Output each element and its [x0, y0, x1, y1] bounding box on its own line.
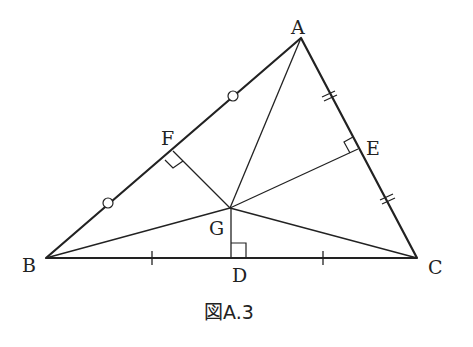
equal-mark-circle-1 — [228, 91, 238, 101]
right-angle-d — [231, 243, 246, 258]
label-e: E — [366, 137, 380, 159]
equal-mark-circle-2 — [103, 198, 113, 208]
label-b: B — [22, 254, 36, 276]
segment-ge — [230, 149, 358, 208]
right-angle-e — [344, 137, 353, 153]
label-g: G — [209, 217, 224, 239]
label-f: F — [161, 127, 174, 149]
segment-gf — [173, 151, 230, 208]
figure-caption: 図A.3 — [204, 301, 254, 323]
label-d: D — [232, 264, 247, 286]
segment-gc — [230, 208, 417, 258]
label-a: A — [290, 16, 305, 38]
right-angle-f — [165, 160, 183, 168]
segment-ga — [230, 38, 301, 208]
label-c: C — [428, 256, 443, 278]
triangle-diagram: A B C D E F G 図A.3 — [0, 0, 473, 347]
